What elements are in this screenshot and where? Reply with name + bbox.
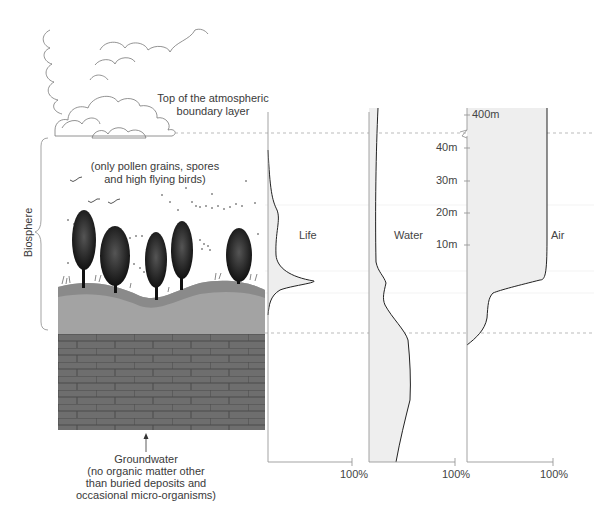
groundwater-bricks	[58, 334, 265, 430]
life-chart-title: Life	[299, 229, 317, 241]
boundary-layer-label-line2: boundary layer	[148, 105, 278, 118]
tree-icon	[72, 210, 96, 288]
groundwater-label: Groundwater (no organic matter other tha…	[76, 453, 216, 501]
air-chart-title: Air	[551, 229, 564, 241]
boundary-layer-label-line1: Top of the atmospheric	[148, 92, 278, 105]
water-chart-title: Water	[394, 229, 423, 241]
groundwater-line3: than buried deposits and	[76, 477, 216, 489]
tree-icon	[100, 226, 130, 293]
height-tick-400m: 400m	[472, 108, 500, 120]
upper-note-line1: (only pollen grains, spores	[80, 160, 230, 173]
biosphere-diagram	[0, 0, 594, 521]
air-chart	[460, 108, 553, 466]
water-chart	[369, 108, 455, 466]
biosphere-brace	[35, 138, 48, 330]
clouds-illustration	[43, 29, 208, 138]
height-tick-10m: 10m	[436, 238, 457, 250]
ground-illustration	[58, 281, 265, 430]
height-tick-30m: 30m	[436, 174, 457, 186]
groundwater-line4: occasional micro-organisms)	[76, 489, 216, 501]
tree-icon	[226, 228, 252, 284]
groundwater-line1: Groundwater	[76, 453, 216, 465]
air-x-max-label: 100%	[540, 468, 568, 480]
height-tick-20m: 20m	[436, 206, 457, 218]
upper-atmosphere-note: (only pollen grains, spores and high fly…	[80, 160, 230, 186]
upper-note-line2: and high flying birds)	[80, 173, 230, 186]
water-x-max-label: 100%	[442, 468, 470, 480]
tree-icon	[145, 232, 167, 300]
groundwater-line2: (no organic matter other	[76, 465, 216, 477]
boundary-layer-label: Top of the atmospheric boundary layer	[148, 92, 278, 118]
height-tick-40m: 40m	[436, 141, 457, 153]
life-x-max-label: 100%	[340, 468, 368, 480]
arrow-up-icon	[144, 433, 149, 439]
life-chart	[268, 112, 352, 466]
axis-break-icon	[460, 130, 467, 138]
biosphere-label: Biosphere	[22, 203, 35, 263]
tree-icon	[171, 221, 193, 290]
